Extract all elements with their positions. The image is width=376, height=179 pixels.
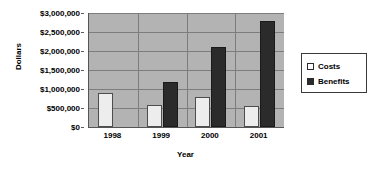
bar-costs-1999: [147, 105, 162, 127]
y-axis-tick-mark: [81, 108, 84, 109]
legend-item-label: Benefits: [318, 77, 350, 86]
square-dark-icon: [307, 78, 314, 85]
x-axis-tick-label: 2000: [201, 131, 219, 140]
y-axis-tick-label: $0: [71, 123, 80, 132]
y-axis-tick-mark: [81, 13, 84, 14]
y-axis-tick-label: $500,000: [47, 104, 80, 113]
y-axis-tick-mark: [81, 32, 84, 33]
bar-benefits-2001: [260, 21, 275, 127]
x-axis-tick-label: 1998: [103, 131, 121, 140]
bar-costs-1998: [98, 93, 113, 127]
legend-item-costs: Costs: [307, 59, 366, 74]
bar-benefits-1999: [163, 82, 178, 127]
square-light-icon: [307, 63, 314, 70]
x-axis-tick-label: 2001: [250, 131, 268, 140]
x-axis-title: Year: [88, 150, 283, 159]
legend-item-label: Costs: [318, 62, 340, 71]
x-axis-tick-labels: 1998199920002001: [88, 131, 283, 145]
y-axis-tick-label: $2,500,000: [40, 28, 80, 37]
bar-costs-2001: [244, 106, 259, 127]
y-axis-tick-mark: [81, 127, 84, 128]
bar-chart: Dollars $0$500,000$1,000,000$1,500,000$2…: [0, 0, 376, 179]
category-separator: [138, 13, 139, 127]
plot-area: [88, 13, 284, 128]
category-separator: [187, 13, 188, 127]
category-separator: [235, 13, 236, 127]
y-axis-tick-label: $1,000,000: [40, 85, 80, 94]
bar-benefits-2000: [211, 47, 226, 127]
y-axis-title: Dollars: [14, 27, 23, 87]
y-axis-tick-label: $3,000,000: [40, 9, 80, 18]
legend-item-benefits: Benefits: [307, 74, 366, 89]
y-axis-tick-mark: [81, 89, 84, 90]
y-axis-tick-label: $2,000,000: [40, 47, 80, 56]
y-axis-tick-labels: $0$500,000$1,000,000$1,500,000$2,000,000…: [24, 13, 84, 127]
bar-costs-2000: [195, 97, 210, 127]
y-axis-tick-mark: [81, 70, 84, 71]
y-axis-tick-label: $1,500,000: [40, 66, 80, 75]
x-axis-tick-label: 1999: [152, 131, 170, 140]
chart-legend: Costs Benefits: [301, 53, 367, 93]
y-axis-tick-mark: [81, 51, 84, 52]
